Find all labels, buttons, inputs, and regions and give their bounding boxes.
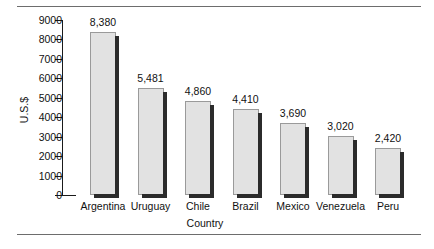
bar[interactable] <box>375 148 401 195</box>
bar[interactable] <box>185 101 211 196</box>
bar-value-label: 4,410 <box>216 93 276 105</box>
category-label: Peru <box>350 200 426 212</box>
bar[interactable] <box>90 32 116 195</box>
y-tick-label: 0 <box>14 190 62 201</box>
bar[interactable] <box>233 109 259 195</box>
bar-value-label: 3,020 <box>311 120 371 132</box>
y-tick-label: 8000 <box>14 34 62 45</box>
bar-value-label: 3,690 <box>263 107 323 119</box>
bar[interactable] <box>280 123 306 195</box>
bar[interactable] <box>138 88 164 195</box>
x-axis-title: Country <box>0 217 434 229</box>
y-tick-label: 1000 <box>14 171 62 182</box>
y-tick-label: 9000 <box>14 15 62 26</box>
y-tick-label: 2000 <box>14 151 62 162</box>
chart-figure: 9000800070006000500040003000200010000 U.… <box>0 0 434 249</box>
y-axis-title: U.S.$ <box>18 80 30 140</box>
x-axis-origin-stub <box>62 195 76 196</box>
bar-value-label: 8,380 <box>73 16 133 28</box>
plot-area: 9000800070006000500040003000200010000 U.… <box>0 0 434 249</box>
y-axis-line <box>62 20 63 196</box>
bar[interactable] <box>328 136 354 195</box>
y-tick-label: 7000 <box>14 54 62 65</box>
bar-value-label: 5,481 <box>121 72 181 84</box>
bar-value-label: 2,420 <box>358 132 418 144</box>
